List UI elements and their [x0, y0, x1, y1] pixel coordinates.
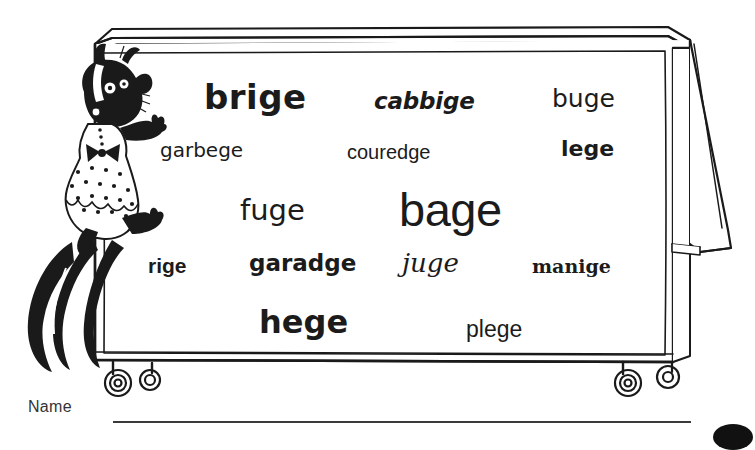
word-fuge: fuge	[240, 196, 305, 225]
easel-top-rail	[95, 27, 690, 48]
name-label: Name	[28, 398, 72, 416]
word-buge: buge	[552, 86, 615, 111]
word-juge: juge	[402, 250, 459, 276]
name-row: Name	[28, 398, 728, 428]
word-hege: hege	[259, 306, 348, 338]
corner-decoration-dot	[713, 424, 753, 450]
word-plege: plege	[466, 318, 522, 341]
word-rige: rige	[148, 255, 187, 276]
easel-rear-leg	[690, 40, 731, 252]
word-manige: manige	[532, 257, 611, 276]
word-bage: bage	[399, 186, 502, 233]
word-brige: brige	[204, 80, 307, 114]
word-garbege: garbege	[160, 140, 243, 160]
caster-wheel-left-1	[105, 370, 131, 396]
word-cabbige: cabbige	[374, 90, 475, 113]
word-couredge: couredge	[347, 142, 430, 162]
caster-wheel-left-2	[140, 370, 160, 390]
word-board: brige cabbige buge garbege couredge lege…	[104, 58, 649, 358]
caster-wheel-right-1	[615, 370, 641, 396]
word-garadge: garadge	[249, 252, 356, 275]
name-write-line[interactable]	[113, 421, 691, 423]
word-lege: lege	[561, 138, 614, 160]
caster-wheel-right-2	[657, 366, 679, 388]
